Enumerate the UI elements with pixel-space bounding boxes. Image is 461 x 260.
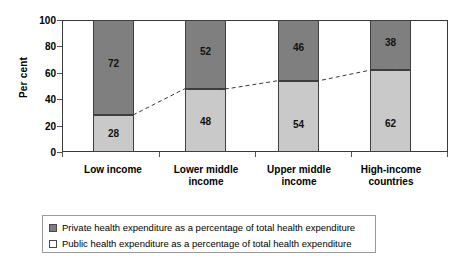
x-tick-mark-1 xyxy=(159,152,160,157)
y-axis-title: Per cent xyxy=(18,48,29,108)
bar-segment-public xyxy=(278,81,319,152)
legend: Private health expenditure as a percenta… xyxy=(42,215,376,253)
legend-item-public: Public health expenditure as a percentag… xyxy=(49,236,369,251)
bar-value-private: 46 xyxy=(278,42,319,53)
bar-segment-public xyxy=(370,70,411,152)
y-tick-label-100: 100 xyxy=(28,16,56,26)
bar-value-private: 38 xyxy=(370,37,411,48)
legend-swatch-public-icon xyxy=(49,240,57,248)
y-tick-label-40: 40 xyxy=(28,95,56,105)
bar-value-public: 28 xyxy=(93,128,134,139)
bar-value-public: 54 xyxy=(278,119,319,130)
y-tick-label-20: 20 xyxy=(28,122,56,132)
bar-low-income: 72 28 xyxy=(93,20,134,152)
x-tick-mark-2 xyxy=(255,152,256,157)
legend-swatch-private-icon xyxy=(49,224,57,232)
x-tick-mark-3 xyxy=(351,152,352,157)
y-tick-label-80: 80 xyxy=(28,42,56,52)
bar-high-income-countries: 38 62 xyxy=(370,20,411,152)
bar-value-public: 48 xyxy=(185,116,226,127)
stacked-bar-chart: Per cent 100 80 60 40 20 0 72 28 52 48 4… xyxy=(0,0,461,260)
legend-label-private: Private health expenditure as a percenta… xyxy=(62,222,355,233)
bar-value-private: 52 xyxy=(185,46,226,57)
bar-value-private: 72 xyxy=(93,58,134,69)
legend-label-public: Public health expenditure as a percentag… xyxy=(62,238,351,249)
bar-value-public: 62 xyxy=(370,118,411,129)
x-category-label-high-income-countries: High-income countries xyxy=(336,164,446,188)
y-tick-label-60: 60 xyxy=(28,69,56,79)
legend-item-private: Private health expenditure as a percenta… xyxy=(49,220,369,235)
y-tick-label-0: 0 xyxy=(28,148,56,158)
bar-lower-middle-income: 52 48 xyxy=(185,20,226,152)
x-tick-mark-start xyxy=(62,152,63,157)
x-tick-mark-end xyxy=(447,152,448,157)
bar-upper-middle-income: 46 54 xyxy=(278,20,319,152)
